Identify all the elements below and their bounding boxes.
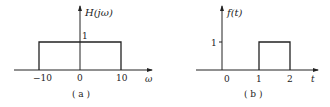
y-tick: 1	[211, 38, 217, 48]
x-tick-0: 0	[77, 73, 83, 83]
rect-pulse	[259, 42, 290, 70]
caption: ( a )	[72, 89, 90, 99]
x-label: ω	[145, 74, 153, 84]
x-tick-0: 0	[224, 74, 230, 84]
x-tick-1: 1	[256, 74, 262, 84]
y-label: f(t)	[226, 7, 243, 18]
caption: ( b )	[244, 89, 263, 99]
x-tick-neg10: −10	[33, 73, 52, 83]
x-tick-2: 2	[287, 74, 293, 84]
figure-b: f(t) 1 0 1 2 t ( b )	[196, 6, 318, 99]
x-label: t	[311, 74, 315, 84]
x-tick-10: 10	[116, 73, 128, 83]
figure-a: H(jω) 1 −10 0 10 ω ( a )	[14, 6, 153, 99]
y-tick: 1	[82, 31, 88, 41]
y-label: H(jω)	[84, 7, 113, 18]
diagram-canvas: H(jω) 1 −10 0 10 ω ( a ) f(t) 1 0 1 2 t …	[0, 0, 330, 107]
